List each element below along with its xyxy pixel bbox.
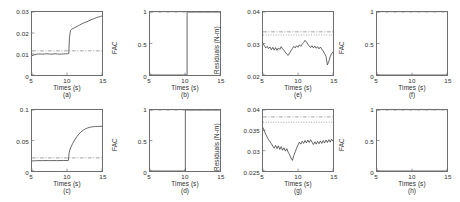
xtick-label-g: 5 [260,173,264,180]
x-axis-label-g: Times (s) [284,180,311,187]
y-axis-label-g: Residuals (N-m) [213,123,220,171]
xtick-label-d: 15 [217,173,224,180]
y-axis-label-h: FAC [338,138,345,151]
xtick-label-a: 10 [63,77,70,84]
ytick-label-f: 1 [349,8,374,15]
xtick-label-f: 5 [374,77,378,84]
xtick-label-a: 5 [29,77,33,84]
plot-area-f [376,11,448,76]
x-axis-label-d: Times (s) [171,180,198,187]
panel-caption-f: (f) [409,91,415,98]
xtick-label-d: 5 [147,173,151,180]
data-line [32,126,102,161]
panel-caption-c: (c) [63,187,70,194]
ytick-label-a: 0 [4,73,29,80]
xtick-label-d: 10 [181,173,188,180]
ytick-label-d: 0.5 [122,137,147,144]
ytick-label-h: 0.5 [349,137,374,144]
panel-caption-g: (g) [294,187,302,194]
panel-caption-a: (a) [63,91,71,98]
ytick-label-f: 0.5 [349,40,374,47]
ytick-label-g: 0.025 [235,169,260,176]
xtick-label-h: 10 [408,173,415,180]
ytick-label-g: 0.03 [235,148,260,155]
ytick-label-d: 1 [122,106,147,113]
x-axis-label-f: Times (s) [398,84,425,91]
data-line [263,127,333,160]
y-axis-label-f: FAC [338,41,345,54]
panel-caption-h: (h) [408,187,416,194]
panel-caption-d: (d) [181,187,189,194]
xtick-label-b: 10 [181,77,188,84]
xtick-label-e: 10 [294,77,301,84]
ytick-label-g: 0.04 [235,106,260,113]
xtick-label-b: 5 [147,77,151,84]
xtick-label-f: 10 [408,77,415,84]
ytick-label-b: 0 [122,73,147,80]
panel-caption-b: (b) [181,91,189,98]
x-axis-label-e: Times (s) [284,84,311,91]
figure-multi-panel-residual-fac: 00.010.020.0351015Residuals (rad)Times (… [0,0,460,202]
xtick-label-f: 15 [444,77,451,84]
data-line [32,16,102,56]
ytick-label-b: 1 [122,8,147,15]
xtick-label-e: 5 [260,77,264,84]
ytick-label-a: 0.02 [4,29,29,36]
plot-area-h [376,109,448,172]
xtick-label-h: 15 [444,173,451,180]
xtick-label-h: 5 [374,173,378,180]
plot-area-c [31,109,103,172]
x-axis-label-a: Times (s) [53,84,80,91]
plot-area-g [262,109,334,172]
data-line [263,40,333,65]
xtick-label-a: 15 [99,77,106,84]
ytick-label-c: 0 [4,169,29,176]
panel-caption-e: (e) [294,91,302,98]
ytick-label-a: 0.01 [4,51,29,58]
ytick-label-d: 0 [122,169,147,176]
data-line [150,110,220,171]
plot-area-e [262,11,334,76]
ytick-label-e: 0.02 [235,73,260,80]
data-line [150,12,220,75]
ytick-label-e: 0.03 [235,40,260,47]
plot-area-d [149,109,221,172]
x-axis-label-b: Times (s) [171,84,198,91]
ytick-label-c: 0.05 [4,137,29,144]
xtick-label-e: 15 [330,77,337,84]
ytick-label-g: 0.035 [235,127,260,134]
y-axis-label-d: FAC [111,138,118,151]
xtick-label-c: 15 [99,173,106,180]
xtick-label-b: 15 [217,77,224,84]
x-axis-label-c: Times (s) [53,180,80,187]
ytick-label-h: 1 [349,106,374,113]
x-axis-label-h: Times (s) [398,180,425,187]
ytick-label-c: 0.1 [4,106,29,113]
xtick-label-g: 15 [330,173,337,180]
ytick-label-a: 0.03 [4,8,29,15]
xtick-label-c: 5 [29,173,33,180]
ytick-label-h: 0 [349,169,374,176]
ytick-label-b: 0.5 [122,40,147,47]
y-axis-label-e: Residuals (N-m) [213,26,220,74]
y-axis-label-b: FAC [111,41,118,54]
xtick-label-c: 10 [63,173,70,180]
plot-area-a [31,11,103,76]
plot-area-b [149,11,221,76]
ytick-label-e: 0.04 [235,8,260,15]
ytick-label-f: 0 [349,73,374,80]
xtick-label-g: 10 [294,173,301,180]
